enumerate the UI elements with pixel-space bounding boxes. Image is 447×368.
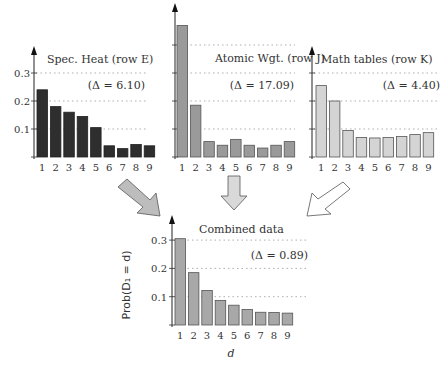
x-tick-label: 2 <box>52 162 58 173</box>
axis-arrow-icon <box>169 215 175 224</box>
panel-3: 123456789Math tables (row K)(Δ = 4.40) <box>309 46 440 173</box>
x-tick-label: 5 <box>93 162 99 173</box>
bar-7 <box>396 137 407 157</box>
axis-arrow-icon <box>172 3 178 12</box>
bar-9 <box>282 313 293 325</box>
x-tick-label: 9 <box>146 162 152 173</box>
bar-6 <box>104 146 115 157</box>
x-tick-label: 1 <box>179 162 185 173</box>
panel-4: 1234567890.10.20.3Combined data(Δ = 0.89… <box>120 215 308 360</box>
x-tick-label: 2 <box>331 162 337 173</box>
y-tick-label: 0.2 <box>151 263 167 274</box>
bar-4 <box>217 145 228 157</box>
bar-7 <box>257 148 268 157</box>
bar-8 <box>131 144 142 157</box>
x-axis-label: d <box>227 347 234 360</box>
x-tick-label: 7 <box>259 162 265 173</box>
arrow-atomic-icon <box>221 176 247 210</box>
x-tick-label: 4 <box>358 162 364 173</box>
bar-9 <box>144 146 155 157</box>
x-tick-label: 7 <box>257 330 263 341</box>
bar-8 <box>271 145 282 157</box>
panel-1: 1234567890.10.20.3Spec. Heat (row E)(Δ =… <box>14 46 155 173</box>
x-tick-label: 9 <box>284 330 290 341</box>
bar-2 <box>50 107 61 157</box>
bar-1 <box>175 239 186 325</box>
x-tick-label: 3 <box>204 330 210 341</box>
bar-9 <box>284 142 295 157</box>
x-tick-label: 6 <box>244 330 250 341</box>
x-tick-label: 4 <box>219 162 225 173</box>
bar-3 <box>343 130 354 157</box>
bar-6 <box>383 137 394 157</box>
bar-1 <box>37 90 48 157</box>
bar-5 <box>231 139 242 157</box>
panel-title: Combined data <box>199 223 284 236</box>
y-tick-label: 0.3 <box>151 235 167 246</box>
bar-3 <box>204 142 215 157</box>
bar-9 <box>423 133 434 157</box>
bar-3 <box>202 290 213 325</box>
delta-annotation: (Δ = 17.09) <box>230 79 294 92</box>
x-tick-label: 8 <box>412 162 418 173</box>
x-tick-label: 6 <box>385 162 391 173</box>
x-tick-label: 4 <box>79 162 85 173</box>
bar-4 <box>215 300 226 325</box>
axis-arrow-icon <box>309 46 315 55</box>
x-tick-label: 7 <box>398 162 404 173</box>
y-tick-label: 0.1 <box>14 124 30 135</box>
arrow-math-icon <box>307 182 350 216</box>
bar-5 <box>229 305 240 325</box>
bar-5 <box>370 138 381 157</box>
bar-1 <box>316 86 327 157</box>
x-tick-label: 1 <box>177 330 183 341</box>
bar-2 <box>190 105 201 157</box>
delta-annotation: (Δ = 4.40) <box>383 79 440 92</box>
x-tick-label: 2 <box>192 162 198 173</box>
x-tick-label: 8 <box>273 162 279 173</box>
x-tick-label: 3 <box>206 162 212 173</box>
bar-2 <box>188 273 199 325</box>
panel-title: Math tables (row K) <box>321 53 433 66</box>
y-tick-label: 0.2 <box>14 96 30 107</box>
delta-annotation: (Δ = 6.10) <box>88 79 145 92</box>
arrow-spec-heat-icon <box>118 179 160 216</box>
bar-7 <box>255 312 266 325</box>
bar-5 <box>91 128 102 157</box>
bar-7 <box>117 149 128 157</box>
x-tick-label: 6 <box>106 162 112 173</box>
y-axis-label: Prob(D₁ = d) <box>120 250 133 319</box>
x-tick-label: 1 <box>318 162 324 173</box>
x-tick-label: 6 <box>246 162 252 173</box>
x-tick-label: 9 <box>286 162 292 173</box>
x-tick-label: 8 <box>271 330 277 341</box>
x-tick-label: 7 <box>119 162 125 173</box>
x-tick-label: 5 <box>233 162 239 173</box>
x-tick-label: 4 <box>217 330 223 341</box>
benford-figure: 1234567890.10.20.3Spec. Heat (row E)(Δ =… <box>0 0 447 368</box>
y-tick-label: 0.1 <box>151 292 167 303</box>
bar-2 <box>329 101 340 157</box>
x-tick-label: 3 <box>66 162 72 173</box>
arrows <box>118 176 350 216</box>
x-tick-label: 2 <box>190 330 196 341</box>
x-tick-label: 5 <box>372 162 378 173</box>
x-tick-label: 3 <box>345 162 351 173</box>
bar-8 <box>269 313 280 325</box>
y-tick-label: 0.3 <box>14 68 30 79</box>
panel-title: Spec. Heat (row E) <box>47 53 153 66</box>
bar-1 <box>177 25 188 157</box>
bar-4 <box>77 116 88 157</box>
bar-8 <box>410 135 421 157</box>
panel-title: Atomic Wgt. (row J) <box>214 52 325 65</box>
x-tick-label: 9 <box>425 162 431 173</box>
bar-4 <box>356 137 367 157</box>
bar-6 <box>244 145 255 157</box>
panel-2: 123456789Atomic Wgt. (row J)(Δ = 17.09) <box>172 3 325 173</box>
bar-6 <box>242 309 253 325</box>
delta-annotation: (Δ = 0.89) <box>251 249 308 262</box>
x-tick-label: 5 <box>231 330 237 341</box>
axis-arrow-icon <box>31 46 37 55</box>
bar-3 <box>64 112 75 157</box>
x-tick-label: 8 <box>133 162 139 173</box>
